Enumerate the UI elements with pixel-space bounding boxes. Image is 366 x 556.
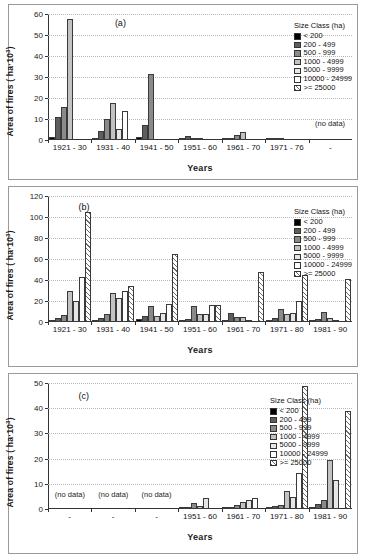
y-tick-label: 50 — [34, 31, 43, 40]
bar — [278, 138, 284, 140]
bar-group: 1941 - 50 — [135, 14, 178, 140]
x-tick-label: - — [112, 512, 115, 521]
legend-title: Size Class (ha) — [270, 397, 328, 406]
bar — [246, 320, 252, 322]
legend-swatch-icon — [294, 236, 301, 243]
legend-label: >= 25000 — [304, 84, 336, 93]
bar-group: 1931 - 40 — [91, 196, 134, 322]
x-tick-mark — [178, 322, 179, 325]
y-tick-label: 20 — [34, 297, 43, 306]
legend-swatch-icon — [294, 245, 301, 252]
bar-group: 1921 - 30 — [48, 14, 91, 140]
bar-group: 1961 - 70 — [222, 196, 265, 322]
bar — [258, 272, 264, 322]
x-tick-mark — [309, 509, 310, 512]
legend-swatch-icon — [294, 42, 301, 49]
x-tick-label: 1941 - 50 — [140, 325, 174, 334]
legend-swatch-icon — [294, 33, 301, 40]
bar — [302, 275, 308, 322]
bar-group: 1951 - 60 — [178, 383, 221, 509]
panel-b-legend: Size Class (ha) < 200 200 - 499 500 - 99… — [294, 208, 352, 278]
legend-swatch-icon — [294, 228, 301, 235]
y-tick-label: 0 — [39, 136, 43, 145]
bar-group: - — [91, 383, 134, 509]
x-tick-label: 1941 - 50 — [140, 143, 174, 152]
x-tick-mark — [265, 322, 266, 325]
bar — [240, 132, 246, 140]
legend-swatch-icon — [270, 451, 277, 458]
panel-a-legend: Size Class (ha) < 200 200 - 499 500 - 99… — [294, 22, 352, 92]
y-tick-label: 40 — [34, 276, 43, 285]
legend-item-6: >= 25000 — [270, 459, 328, 468]
legend-swatch-icon — [294, 68, 301, 75]
bar — [67, 19, 73, 140]
x-tick-label: 1981 - 90 — [313, 512, 347, 521]
y-tick-label: 60 — [34, 10, 43, 19]
x-tick-mark — [91, 322, 92, 325]
x-tick-mark — [135, 509, 136, 512]
x-tick-label: 1961 - 70 — [226, 143, 260, 152]
legend-title: Size Class (ha) — [294, 22, 352, 31]
legend-swatch-icon — [294, 59, 301, 66]
panel-a: Area of fires ( ha·103) (a) (no data) 01… — [0, 0, 366, 182]
bar — [148, 74, 154, 140]
bar — [345, 411, 351, 509]
legend-item-6: >= 25000 — [294, 84, 352, 93]
y-tick-label: 10 — [34, 115, 43, 124]
bar — [197, 138, 203, 140]
legend-swatch-icon — [270, 460, 277, 467]
x-tick-mark — [48, 509, 49, 512]
bar — [203, 498, 209, 509]
x-tick-mark — [91, 509, 92, 512]
y-tick-label: 80 — [34, 234, 43, 243]
x-tick-label: 1951 - 60 — [183, 325, 217, 334]
x-tick-mark — [135, 140, 136, 143]
x-tick-label: 1981 - 90 — [313, 325, 347, 334]
figure-page: Area of fires ( ha·103) (a) (no data) 01… — [0, 0, 366, 556]
y-tick-label: 50 — [34, 379, 43, 388]
y-tick-label: 60 — [34, 255, 43, 264]
bar-group: 1951 - 60 — [178, 14, 221, 140]
y-tick-label: 40 — [34, 404, 43, 413]
legend-title: Size Class (ha) — [294, 208, 352, 217]
x-tick-mark — [135, 322, 136, 325]
bar-group: 1941 - 50 — [135, 196, 178, 322]
bar — [215, 305, 221, 322]
legend-label: >= 25000 — [280, 459, 312, 468]
bar-group: 1961 - 70 — [222, 14, 265, 140]
legend-swatch-icon — [270, 443, 277, 450]
legend-swatch-icon — [270, 417, 277, 424]
legend-swatch-icon — [270, 408, 277, 415]
x-tick-label: 1931 - 40 — [96, 143, 130, 152]
y-tick-label: 10 — [34, 479, 43, 488]
x-tick-label: 1971 - 80 — [270, 325, 304, 334]
bar-group: 1951 - 60 — [178, 196, 221, 322]
legend-swatch-icon — [270, 434, 277, 441]
x-tick-mark — [309, 322, 310, 325]
panel-a-y-axis-title: Area of fires ( ha·103) — [0, 0, 22, 182]
panel-c: Area of fires ( ha·103) (c) (no data) (n… — [0, 369, 366, 556]
x-tick-mark — [178, 140, 179, 143]
legend-swatch-icon — [294, 262, 301, 269]
x-tick-label: 1951 - 60 — [183, 143, 217, 152]
x-tick-mark — [91, 140, 92, 143]
x-tick-label: 1961 - 70 — [226, 325, 260, 334]
x-tick-label: 1921 - 30 — [53, 325, 87, 334]
bar — [85, 212, 91, 322]
legend-swatch-icon — [294, 254, 301, 261]
y-tick-label: 30 — [34, 73, 43, 82]
bar — [128, 286, 134, 322]
x-tick-label: - — [68, 512, 71, 521]
bar-group: 1931 - 40 — [91, 14, 134, 140]
panel-c-x-axis-title: Years — [48, 532, 352, 542]
legend-swatch-icon — [294, 50, 301, 57]
x-tick-mark — [178, 509, 179, 512]
x-tick-label: - — [155, 512, 158, 521]
legend-swatch-icon — [270, 425, 277, 432]
x-tick-mark — [48, 322, 49, 325]
panel-b: Area of fires ( ha·103) (b) 020406080100… — [0, 182, 366, 369]
y-tick-label: 30 — [34, 429, 43, 438]
y-tick-label: 100 — [30, 213, 43, 222]
x-tick-label: 1951 - 60 — [183, 512, 217, 521]
bar-group: 1961 - 70 — [222, 383, 265, 509]
